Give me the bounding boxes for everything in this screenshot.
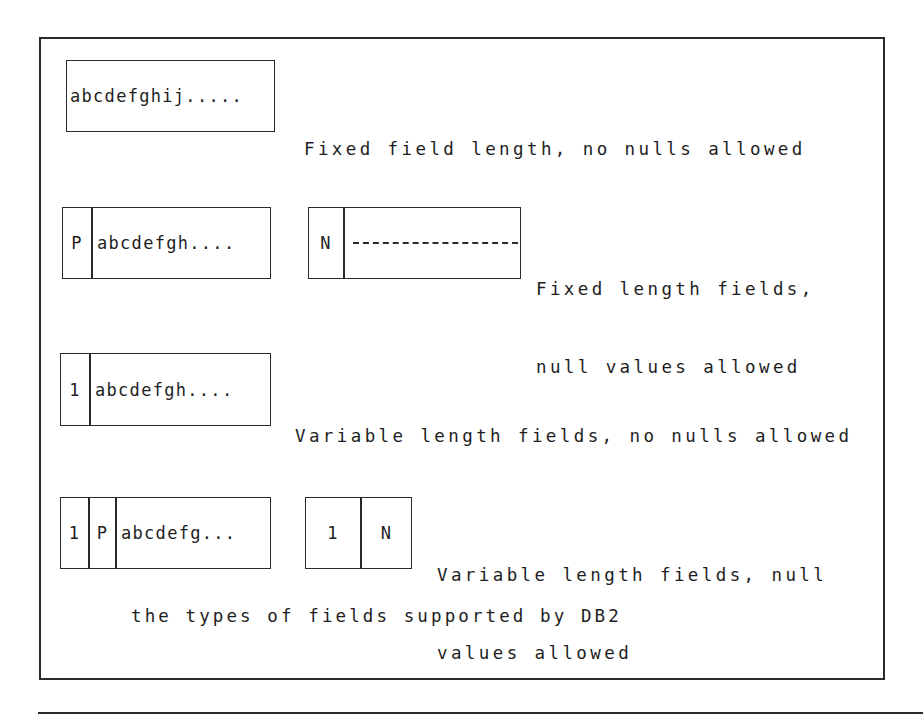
length-prefix-cell: 1 <box>61 354 91 425</box>
empty-field-dashes <box>345 208 520 278</box>
field-data-cell: abcdefgh.... <box>93 208 270 278</box>
null-indicator-present-cell: P <box>90 498 117 568</box>
null-indicator-null-cell: N <box>309 208 345 278</box>
length-prefix-cell: 1 <box>61 498 90 568</box>
variable-nullable-present-box: 1 P abcdefg... <box>60 497 271 569</box>
fixed-nullable-present-box: P abcdefgh.... <box>62 207 271 279</box>
variable-no-null-box: 1 abcdefgh.... <box>60 353 271 426</box>
null-indicator-present-cell: P <box>63 208 93 278</box>
variable-nullable-label: Variable length fields, null values allo… <box>437 510 827 692</box>
diagram-caption: the types of fields supported by DB2 <box>131 606 622 626</box>
null-indicator-null-cell: N <box>362 498 411 568</box>
variable-no-null-label: Variable length fields, no nulls allowed <box>295 371 852 475</box>
field-data-cell: abcdefghij..... <box>67 61 274 131</box>
bottom-rule <box>38 712 923 714</box>
fixed-no-null-field-box: abcdefghij..... <box>66 60 275 132</box>
fixed-no-null-label: Fixed field length, no nulls allowed <box>304 84 806 188</box>
variable-nullable-null-box: 1 N <box>305 497 412 569</box>
field-data-cell: abcdefg... <box>117 498 270 568</box>
field-data-cell: abcdefgh.... <box>91 354 270 425</box>
length-prefix-cell: 1 <box>306 498 362 568</box>
fixed-nullable-null-box: N <box>308 207 521 279</box>
